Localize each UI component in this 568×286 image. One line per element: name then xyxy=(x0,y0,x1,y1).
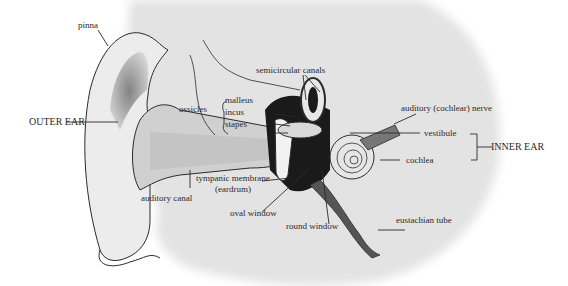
label-ossicles: ossicles xyxy=(179,104,207,114)
label-oval-window: oval window xyxy=(230,208,277,218)
label-outer-ear: OUTER EAR xyxy=(29,117,85,127)
ear-diagram: pinna OUTER EAR ossicles malleus incus s… xyxy=(0,0,568,286)
label-round-window: round window xyxy=(286,221,338,231)
label-malleus: malleus xyxy=(225,95,253,105)
label-semicircular-canals: semicircular canals xyxy=(256,65,325,75)
label-inner-ear: INNER EAR xyxy=(491,142,544,152)
label-vestibule: vestibule xyxy=(424,128,457,138)
label-cochlea: cochlea xyxy=(406,155,433,165)
label-eardrum: (eardrum) xyxy=(215,184,251,194)
label-auditory-canal: auditory canal xyxy=(141,193,192,203)
label-stapes: stapes xyxy=(225,119,247,129)
label-incus: incus xyxy=(225,107,244,117)
label-tympanic-membrane: tympanic membrane xyxy=(196,173,270,183)
label-pinna: pinna xyxy=(78,20,98,30)
ear-illustration xyxy=(0,0,568,286)
label-eustachian-tube: eustachian tube xyxy=(396,215,452,225)
label-auditory-nerve: auditory (cochlear) nerve xyxy=(401,103,492,113)
